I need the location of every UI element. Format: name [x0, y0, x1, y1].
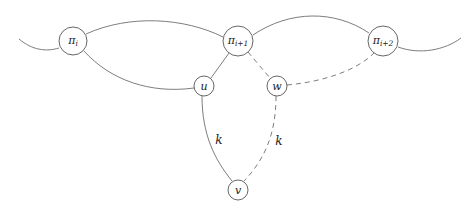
node-label-sub: i+2 [380, 39, 393, 48]
node-label-pi-i2: πi+2 [373, 35, 394, 48]
node-label-v: v [235, 185, 241, 196]
edge-pi-i1-to-pi-i2 [253, 16, 369, 35]
edge-pi-i-to-pi-i1 [86, 21, 223, 37]
edge-w-to-v [244, 96, 276, 181]
edge-pi-i1-to-w [248, 52, 270, 78]
node-label-pi-i1: πi+1 [228, 35, 249, 48]
node-label-base: u [200, 80, 207, 93]
node-label-pi-i: πi [68, 35, 78, 48]
edge-open-left-to-pi-i [19, 39, 59, 50]
edge-label-u-v: k [215, 134, 222, 146]
edge-pi-i2-to-open-right [398, 38, 461, 51]
node-label-base: w [272, 80, 281, 93]
diagram-canvas: πi πi+1 πi+2 u w v k k [0, 0, 474, 212]
edge-w-to-pi-i2 [287, 53, 374, 85]
graph-svg [0, 0, 474, 212]
edge-label-w-v: k [275, 135, 282, 147]
node-label-w: w [272, 81, 281, 92]
node-label-sub: i+1 [235, 39, 248, 48]
edge-pi-i-to-u [84, 51, 194, 89]
edge-pi-i1-to-u [211, 53, 229, 78]
node-label-u: u [200, 81, 207, 92]
node-label-base: v [235, 184, 241, 197]
node-label-sub: i [75, 39, 77, 48]
